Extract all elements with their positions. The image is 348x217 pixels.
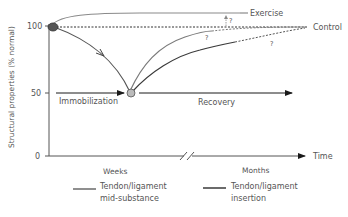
legend-label-insertion-1: Tendon/ligament (230, 182, 298, 191)
legend-label-insertion-2: insertion (231, 194, 266, 203)
ytick-100: 100 (27, 22, 42, 31)
control-label: Control (313, 23, 342, 32)
ytick-50: 50 (31, 89, 41, 98)
trough-point (127, 89, 135, 97)
y-axis-label: Structural properties (% normal) (7, 26, 16, 148)
legend-label-midsubstance-1: Tendon/ligament (99, 182, 167, 191)
question-mark-exercise: ? (229, 17, 232, 25)
ytick-0: 0 (35, 152, 40, 161)
recovery-label: Recovery (198, 98, 235, 107)
immobilization-label: Immobilization (59, 97, 118, 106)
x-axis-label: Time (312, 152, 333, 161)
exercise-line (52, 13, 240, 25)
exercise-label: Exercise (250, 9, 283, 18)
start-point (48, 23, 58, 31)
decline-curve (54, 27, 130, 92)
insertion-curve (132, 42, 235, 92)
months-label: Months (242, 166, 270, 175)
question-mark-insertion: ? (270, 40, 273, 48)
question-mark-midsubstance: ? (205, 34, 208, 42)
legend-label-midsubstance-2: mid-substance (100, 194, 159, 203)
weeks-label: Weeks (103, 167, 128, 176)
chart: 100 50 0 Structural properties (% normal… (0, 0, 348, 217)
